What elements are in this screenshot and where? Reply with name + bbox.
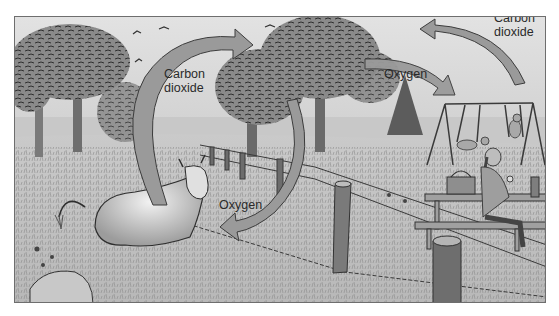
tree-stump [433, 236, 461, 303]
label-oxygen-to-person: Oxygen [384, 67, 427, 81]
scene-illustration [15, 17, 546, 303]
label-line-1: Carbon [494, 16, 535, 25]
illustration-frame: Carbon dioxide Oxygen Oxygen Carbon diox… [14, 16, 546, 303]
label-text: Oxygen [219, 198, 262, 212]
label-cow-carbon-dioxide: Carbon dioxide [164, 67, 205, 95]
label-line-2: dioxide [164, 81, 205, 95]
thermos [531, 177, 539, 197]
label-text: Oxygen [384, 67, 427, 81]
label-person-carbon-dioxide: Carbon dioxide [494, 16, 535, 39]
label-oxygen-to-cow: Oxygen [219, 198, 262, 212]
label-line-1: Carbon [164, 67, 205, 81]
label-line-2: dioxide [494, 25, 535, 39]
